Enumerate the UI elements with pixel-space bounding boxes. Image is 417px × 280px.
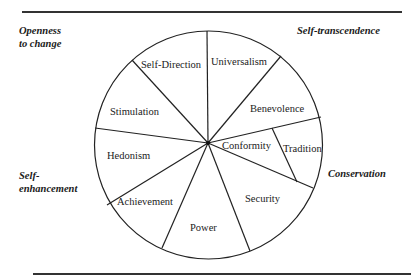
divider-selfdirection-stimulation [132,60,208,143]
segment-hedonism: Hedonism [107,150,150,161]
segment-power: Power [190,222,217,233]
segment-benevolence: Benevolence [250,103,305,114]
divider-power-security [208,143,250,251]
segment-security: Security [245,193,281,204]
divider-universalism-benevolence [208,56,281,143]
value-circle-diagram: Universalism Benevolence Conformity Trad… [0,0,417,280]
segment-tradition: Tradition [283,143,322,154]
segment-conformity: Conformity [222,140,272,151]
segment-universalism: Universalism [211,56,267,67]
segment-achievement: Achievement [117,196,173,207]
divider-stimulation-hedonism [95,128,208,143]
segment-stimulation: Stimulation [110,106,160,117]
divider-universalism-selfdirection [207,31,208,143]
center-dot [206,141,210,145]
segment-self-direction: Self-Direction [141,59,202,70]
divider-conformity-tradition [272,128,297,182]
